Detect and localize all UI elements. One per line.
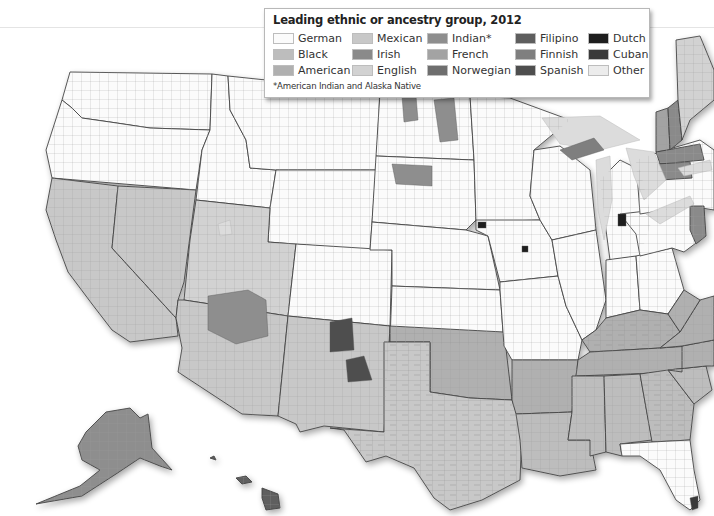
legend-item-other: Other [588, 62, 648, 78]
legend-swatch [352, 49, 373, 60]
legend-label: Indian* [452, 32, 491, 45]
legend-label: American [298, 64, 350, 77]
legend-label: Irish [377, 48, 401, 61]
legend-label: German [298, 32, 342, 45]
legend-item-american: American [273, 62, 352, 78]
legend-item-spanish: Spanish [515, 62, 588, 78]
legend-item-english: English [352, 62, 427, 78]
legend-swatch [273, 49, 294, 60]
legend-label: Filipino [540, 32, 578, 45]
highlight-sioux-county-iowa [478, 222, 486, 228]
legend-swatch [515, 33, 536, 44]
legend-swatch [427, 65, 448, 76]
county-texture [620, 440, 700, 510]
legend-label: English [377, 64, 417, 77]
county-texture [656, 162, 692, 180]
legend-swatch [273, 65, 294, 76]
legend-swatch [273, 33, 294, 44]
legend-swatch [588, 49, 609, 60]
county-texture [512, 360, 578, 414]
highlight-marion-county-iowa [522, 246, 528, 252]
legend-label: Spanish [540, 64, 583, 77]
legend-title: Leading ethnic or ancestry group, 2012 [273, 13, 641, 27]
legend-label: Norwegian [452, 64, 511, 77]
legend-label: Dutch [613, 32, 646, 45]
county-texture [676, 36, 714, 140]
legend-item-dutch: Dutch [588, 30, 648, 46]
legend-swatch [515, 49, 536, 60]
legend-item-finnish: Finnish [515, 46, 588, 62]
legend-swatch [352, 33, 373, 44]
legend-label: Mexican [377, 32, 422, 45]
legend-item-black: Black [273, 46, 352, 62]
legend-swatch [515, 65, 536, 76]
legend-label: French [452, 48, 489, 61]
legend-item-french: French [427, 46, 515, 62]
county-texture [656, 108, 670, 152]
legend-swatch [352, 65, 373, 76]
legend-note: *American Indian and Alaska Native [273, 81, 641, 91]
county-texture [288, 244, 392, 326]
legend-item-filipino: Filipino [515, 30, 588, 46]
county-texture [606, 256, 640, 318]
legend-swatch [588, 65, 609, 76]
legend-label: Other [613, 64, 644, 77]
legend-item-cuban: Cuban [588, 46, 648, 62]
legend: Leading ethnic or ancestry group, 2012 G… [264, 8, 650, 98]
legend-label: Finnish [540, 48, 578, 61]
highlight-ottawa-county-michigan [618, 214, 626, 226]
legend-swatch [427, 49, 448, 60]
county-texture [268, 170, 376, 250]
legend-item-mexican: Mexican [352, 30, 427, 46]
legend-item-german: German [273, 30, 352, 46]
legend-item-norwegian: Norwegian [427, 62, 515, 78]
legend-label: Cuban [613, 48, 648, 61]
legend-swatch [427, 33, 448, 44]
county-texture [376, 92, 474, 160]
legend-item-irish: Irish [352, 46, 427, 62]
legend-swatch [588, 33, 609, 44]
legend-grid: GermanMexicanIndian*FilipinoDutchBlackIr… [273, 30, 641, 78]
legend-item-indian: Indian* [427, 30, 515, 46]
legend-label: Black [298, 48, 328, 61]
county-texture [36, 408, 172, 504]
county-texture [210, 456, 280, 510]
